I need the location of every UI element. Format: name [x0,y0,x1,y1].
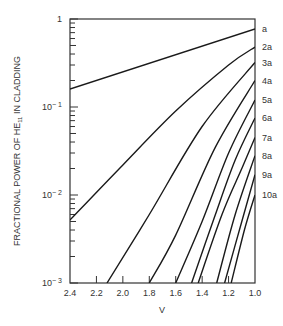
y-axis-title-pre: FRACTIONAL POWER OF HE [12,123,22,246]
curve-9a [225,175,255,283]
y-tick-label: 10− 3 [42,277,62,288]
x-tick-label: 1.0 [249,288,262,298]
data-curves [70,29,255,283]
y-tick-label: 1 [57,14,62,24]
y-axis-title-post: IN CLADDING [12,56,22,117]
x-tick-label: 2.0 [117,288,130,298]
curve-label-10a: 10a [262,190,277,200]
curve-label-3a: 3a [262,58,272,68]
curve-label-2a: 2a [262,42,272,52]
curve-label-7a: 7a [262,133,272,143]
curve-label-4a: 4a [262,76,272,86]
curve-10a [231,195,255,283]
curve-label-5a: 5a [262,95,272,105]
x-tick-label: 2.2 [90,288,103,298]
y-tick-label: 10− 1 [42,101,62,112]
curve-label-6a: 6a [262,113,272,123]
x-axis-title: V [159,305,165,315]
x-tick-label: 1.8 [143,288,156,298]
curve-label-a: a [262,24,267,34]
y-tick-label: 10− 2 [42,189,62,200]
curve-3a [107,63,255,284]
x-tick-label: 1.6 [169,288,182,298]
curve-label-8a: 8a [262,151,272,161]
x-tick-label: 2.4 [64,288,77,298]
y-axis-ticks: 110− 110− 210− 3 [42,14,78,288]
curve-label-9a: 9a [262,170,272,180]
curve-2a [70,47,255,220]
chart: 110− 110− 210− 3 2.42.22.01.81.61.41.21.… [0,0,283,326]
curve-a [70,29,255,89]
x-tick-label: 1.2 [222,288,235,298]
y-axis-title: FRACTIONAL POWER OF HE11 IN CLADDING [12,56,23,246]
x-tick-label: 1.4 [196,288,209,298]
curve-labels: a2a3a4a5a6a7a8a9a10a [262,24,277,200]
